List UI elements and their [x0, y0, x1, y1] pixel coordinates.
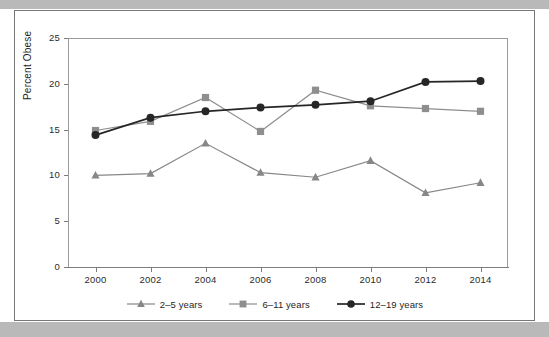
square-marker — [257, 128, 264, 135]
legend-sample-triangle-marker — [126, 298, 156, 310]
y-tick-label: 15 — [36, 124, 60, 135]
series-line — [96, 143, 481, 192]
x-tick-mark — [151, 268, 152, 272]
x-tick-mark — [96, 268, 97, 272]
y-tick-label: 0 — [36, 261, 60, 272]
legend-item-3[interactable]: 12–19 years — [336, 298, 423, 310]
y-tick-label: 5 — [36, 215, 60, 226]
triangle-marker — [256, 168, 264, 176]
legend-label: 6–11 years — [262, 299, 309, 310]
square-marker — [422, 105, 429, 112]
x-tick-mark — [206, 268, 207, 272]
x-tick-mark — [261, 268, 262, 272]
page-band-top — [0, 0, 549, 9]
circle-marker — [92, 131, 100, 139]
y-axis-title: Percent Obese — [22, 31, 33, 100]
x-tick-label: 2006 — [241, 274, 281, 285]
legend-item-2[interactable]: 6–11 years — [228, 298, 309, 310]
square-marker — [312, 87, 319, 94]
circle-marker — [422, 78, 430, 86]
chart-legend: 2–5 years6–11 years12–19 years — [14, 298, 535, 310]
page-gutter-left — [0, 9, 14, 322]
y-tick-label: 10 — [36, 169, 60, 180]
x-tick-label: 2004 — [186, 274, 226, 285]
x-tick-label: 2014 — [461, 274, 501, 285]
circle-marker — [347, 300, 355, 308]
plot-area — [68, 38, 508, 267]
x-tick-label: 2010 — [351, 274, 391, 285]
square-marker — [202, 94, 209, 101]
square-marker — [240, 301, 247, 308]
x-tick-mark — [426, 268, 427, 272]
y-tick-label: 25 — [36, 32, 60, 43]
x-axis-line — [68, 267, 509, 268]
x-tick-label: 2002 — [131, 274, 171, 285]
y-tick-label: 20 — [36, 78, 60, 89]
page-band-bottom — [0, 322, 549, 337]
legend-item-1[interactable]: 2–5 years — [126, 298, 203, 310]
chart-figure: Percent Obese 0510152025 200020022004200… — [0, 0, 549, 337]
circle-marker — [202, 107, 210, 115]
triangle-marker — [201, 139, 209, 147]
square-marker — [477, 108, 484, 115]
x-tick-mark — [481, 268, 482, 272]
page-gutter-right — [536, 9, 549, 322]
circle-marker — [477, 77, 485, 85]
legend-label: 2–5 years — [160, 299, 203, 310]
y-tick-mark — [64, 267, 68, 268]
x-tick-label: 2012 — [406, 274, 446, 285]
x-tick-mark — [316, 268, 317, 272]
series-1 — [91, 139, 484, 196]
triangle-marker — [366, 156, 374, 164]
triangle-marker — [146, 169, 154, 177]
legend-sample-circle-marker — [336, 298, 366, 310]
plot-series-layer — [68, 38, 508, 267]
series-2 — [92, 87, 484, 135]
legend-label: 12–19 years — [370, 299, 423, 310]
triangle-marker — [476, 178, 484, 186]
legend-sample-square-marker — [228, 298, 258, 310]
circle-marker — [312, 101, 320, 109]
x-tick-label: 2000 — [76, 274, 116, 285]
circle-marker — [367, 97, 375, 105]
x-tick-mark — [371, 268, 372, 272]
circle-marker — [147, 114, 155, 122]
x-tick-label: 2008 — [296, 274, 336, 285]
circle-marker — [257, 104, 265, 112]
